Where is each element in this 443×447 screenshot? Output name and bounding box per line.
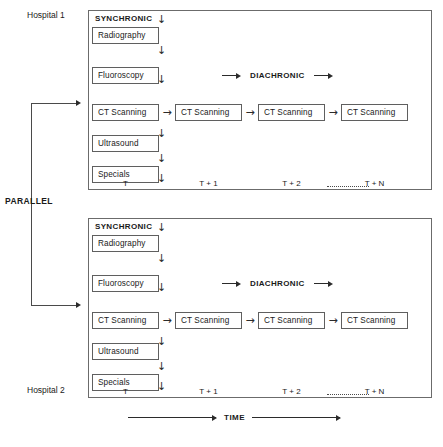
panel-1-down-arrow-1-icon: ↓ [157, 15, 166, 24]
time-axis-arrow-left-icon [212, 415, 217, 421]
panel-1-chain-arrow-2-icon: → [243, 104, 257, 121]
panel-1-modality-fluoroscopy[interactable]: Fluoroscopy [92, 67, 159, 84]
panel-1-synchronic-label: SYNCHRONIC [95, 14, 152, 23]
panel-2-diachronic-arrow-left-icon [236, 281, 241, 287]
panel-2-modality-radiography[interactable]: Radiography [92, 235, 159, 252]
panel-2-chain-arrow-3-icon: → [326, 312, 340, 329]
hospital-2-label: Hospital 2 [27, 385, 65, 395]
panel-1-diachronic-row: DIACHRONIC [222, 67, 333, 84]
panel-2-diachronic-line-right [314, 283, 328, 284]
hospital-1-panel: SYNCHRONIC ↓ ↓ ↓ ↓ ↓ ↓ Radiography Fluor… [88, 10, 432, 190]
figure-canvas: PARALLEL Hospital 1 Hospital 2 SYNCHRONI… [0, 0, 443, 447]
panel-1-diachronic-line-right [314, 75, 328, 76]
panel-1-chain-arrow-1-icon: → [160, 104, 174, 121]
time-axis-line-left [128, 417, 216, 418]
panel-1-chain-arrow-3-icon: → [326, 104, 340, 121]
panel-2-modality-ultrasound[interactable]: Ultrasound [92, 343, 159, 360]
panel-1-modality-ct-scanning[interactable]: CT Scanning [92, 104, 159, 121]
panel-2-modality-ct-scanning[interactable]: CT Scanning [92, 312, 159, 329]
panel-2-ct-box-3[interactable]: CT Scanning [258, 312, 325, 329]
parallel-arrow-head-top-icon [76, 100, 81, 106]
panel-2-time-tick-t2: T + 2 [258, 387, 325, 396]
hospital-2-panel: SYNCHRONIC ↓ ↓ ↓ ↓ ↓ ↓ Radiography Fluor… [88, 218, 432, 398]
panel-2-ct-box-2[interactable]: CT Scanning [175, 312, 242, 329]
panel-2-time-tick-t1: T + 1 [175, 387, 242, 396]
panel-1-time-tick-t1: T + 1 [175, 179, 242, 188]
panel-1-diachronic-label: DIACHRONIC [250, 71, 305, 80]
panel-2-time-tick-tn: T + N [341, 387, 408, 396]
panel-2-time-tick-t: T [92, 387, 159, 396]
panel-1-modality-radiography[interactable]: Radiography [92, 27, 159, 44]
panel-1-ct-box-2[interactable]: CT Scanning [175, 104, 242, 121]
parallel-bracket-arm-top [31, 103, 77, 104]
panel-2-diachronic-arrow-right-icon [328, 281, 333, 287]
hospital-1-label: Hospital 1 [27, 10, 65, 20]
panel-2-down-arrow-1-icon: ↓ [157, 223, 166, 232]
time-axis-line-right [252, 417, 340, 418]
time-axis-label: TIME [217, 413, 252, 422]
panel-2-chain-arrow-2-icon: → [243, 312, 257, 329]
panel-1-down-arrow-2-icon: ↓ [157, 46, 166, 55]
panel-2-chain-arrow-1-icon: → [160, 312, 174, 329]
panel-2-down-arrow-2-icon: ↓ [157, 254, 166, 263]
panel-1-down-arrow-5-icon: ↓ [157, 154, 166, 163]
panel-2-down-arrow-5-icon: ↓ [157, 362, 166, 371]
panel-2-synchronic-label: SYNCHRONIC [95, 222, 152, 231]
panel-1-diachronic-arrow-right-icon [328, 73, 333, 79]
panel-1-diachronic-arrow-left-icon [236, 73, 241, 79]
parallel-bracket-arm-bottom [31, 305, 77, 306]
panel-2-diachronic-row: DIACHRONIC [222, 275, 333, 292]
panel-1-modality-ultrasound[interactable]: Ultrasound [92, 135, 159, 152]
panel-2-modality-fluoroscopy[interactable]: Fluoroscopy [92, 275, 159, 292]
panel-1-ct-box-4[interactable]: CT Scanning [341, 104, 408, 121]
panel-1-time-tick-t: T [92, 179, 159, 188]
panel-1-time-tick-t2: T + 2 [258, 179, 325, 188]
time-axis: TIME [128, 413, 341, 422]
panel-2-ct-box-4[interactable]: CT Scanning [341, 312, 408, 329]
panel-1-diachronic-line-left [222, 75, 236, 76]
panel-2-diachronic-label: DIACHRONIC [250, 279, 305, 288]
panel-1-time-tick-tn: T + N [341, 179, 408, 188]
parallel-label: PARALLEL [5, 196, 53, 206]
panel-2-diachronic-line-left [222, 283, 236, 284]
time-axis-arrow-right-icon [336, 415, 341, 421]
panel-1-ct-box-3[interactable]: CT Scanning [258, 104, 325, 121]
parallel-arrow-head-bottom-icon [76, 302, 81, 308]
